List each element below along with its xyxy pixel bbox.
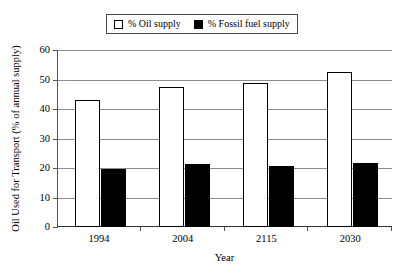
x-axis-tick-label: 1994 — [88, 234, 109, 245]
y-axis-tick-label: 20 — [40, 163, 51, 174]
chart-legend: % Oil supply % Fossil fuel supply — [106, 14, 298, 34]
legend-swatch-open-square-icon — [114, 20, 123, 29]
legend-label-oil-supply: % Oil supply — [128, 19, 181, 29]
y-axis-title: Oil Used for Transport (% of annual supp… — [8, 50, 22, 227]
plot-area: 01020304050601994200421152030 — [57, 50, 392, 227]
y-axis-tick-label: 0 — [45, 222, 50, 233]
bar-fossil-fuel-supply — [353, 163, 378, 227]
bar-fossil-fuel-supply — [185, 164, 210, 227]
x-axis-tick — [307, 227, 308, 231]
x-axis-tick — [391, 227, 392, 231]
bar-oil-supply — [159, 87, 184, 227]
x-axis-tick — [224, 227, 225, 231]
x-axis-tick-label: 2030 — [340, 234, 361, 245]
legend-swatch-filled-square-icon — [194, 20, 203, 29]
y-axis-tick-label: 60 — [40, 45, 51, 56]
legend-entry-fossil-fuel-supply: % Fossil fuel supply — [194, 19, 290, 29]
x-axis-tick-label: 2115 — [256, 234, 277, 245]
legend-entry-oil-supply: % Oil supply — [114, 19, 181, 29]
x-axis-title: Year — [57, 252, 392, 263]
y-axis-tick-label: 50 — [40, 74, 51, 85]
x-axis-tick-label: 2004 — [172, 234, 193, 245]
y-axis-tick-label: 30 — [40, 133, 51, 144]
bar-group: 2115 — [225, 50, 309, 227]
bar-oil-supply — [75, 100, 100, 227]
bar-fossil-fuel-supply — [101, 169, 126, 227]
y-axis-tick — [53, 227, 58, 228]
y-axis-tick-label: 10 — [40, 192, 51, 203]
x-axis-tick — [140, 227, 141, 231]
legend-label-fossil-fuel-supply: % Fossil fuel supply — [208, 19, 290, 29]
y-axis-tick-label: 40 — [40, 104, 51, 115]
bar-oil-supply — [243, 83, 268, 227]
bar-chart: % Oil supply % Fossil fuel supply Oil Us… — [0, 0, 410, 274]
bar-group: 2004 — [141, 50, 225, 227]
bar-oil-supply — [327, 72, 352, 227]
bar-fossil-fuel-supply — [269, 166, 294, 227]
bar-group: 1994 — [57, 50, 141, 227]
bar-group: 2030 — [308, 50, 392, 227]
